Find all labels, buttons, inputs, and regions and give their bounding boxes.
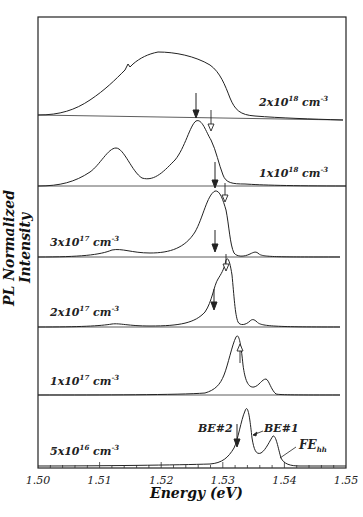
trace-label-2e17: 2x1017 cm-3: [50, 304, 119, 319]
annotation-be2: BE#2: [198, 422, 233, 435]
y-axis-label: PL Normalized Intensity: [1, 153, 33, 343]
x-axis-label: Energy (eV): [0, 485, 363, 501]
trace-label-3e17: 3x1017 cm-3: [50, 234, 119, 249]
trace-label-2e18: 2x1018 cm-3: [259, 94, 328, 109]
filled-arrows: [193, 93, 240, 447]
trace-2e18: [38, 52, 343, 120]
trace-label-1e18: 1x1018 cm-3: [259, 165, 328, 180]
annotation-be1: BE#1: [264, 422, 299, 435]
annotation-fe-hh: FEhh: [299, 438, 327, 454]
open-arrows: [208, 110, 243, 363]
annotation-leaders: [253, 431, 296, 458]
trace-label-1e17: 1x1017 cm-3: [50, 373, 119, 388]
trace-label-5e16: 5x1016 cm-3: [50, 443, 119, 458]
